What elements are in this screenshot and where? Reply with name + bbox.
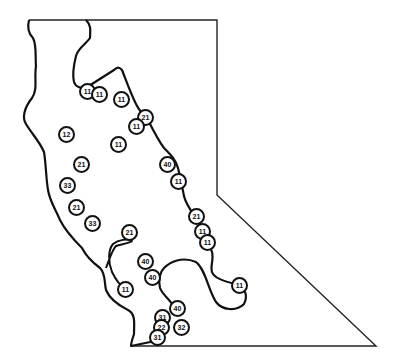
marker-label: 40 — [142, 258, 150, 265]
marker-label: 12 — [63, 131, 71, 138]
marker-label: 11 — [175, 178, 182, 185]
site-marker: 11 — [91, 86, 108, 103]
site-marker: 11 — [199, 234, 216, 251]
marker-label: 32 — [178, 324, 186, 331]
marker-label: 40 — [174, 305, 182, 312]
bay-inlet — [106, 240, 132, 287]
marker-label: 21 — [193, 213, 201, 220]
site-marker: 21 — [121, 224, 138, 241]
state-boundary — [29, 20, 376, 346]
site-marker: 11 — [117, 281, 134, 298]
marker-label: 11 — [122, 286, 129, 293]
marker-label: 11 — [204, 239, 211, 246]
marker-label: 40 — [164, 161, 172, 168]
site-marker: 33 — [59, 177, 76, 194]
site-marker: 12 — [58, 126, 75, 143]
site-marker: 21 — [68, 199, 85, 216]
marker-label: 11 — [236, 282, 243, 289]
site-marker: 40 — [144, 269, 161, 286]
marker-label: 21 — [78, 161, 86, 168]
site-marker: 11 — [110, 136, 127, 153]
site-marker: 40 — [137, 253, 154, 270]
site-marker: 40 — [169, 300, 186, 317]
site-marker: 31 — [149, 329, 166, 346]
marker-label: 40 — [149, 274, 157, 281]
site-marker: 33 — [84, 215, 101, 232]
marker-label: 11 — [115, 141, 122, 148]
site-marker: 21 — [73, 156, 90, 173]
site-marker: 11 — [231, 277, 248, 294]
marker-label: 11 — [118, 96, 125, 103]
marker-label: 21 — [73, 204, 81, 211]
marker-label: 21 — [126, 229, 134, 236]
coastline — [24, 20, 160, 346]
marker-label: 11 — [96, 91, 103, 98]
site-marker: 11 — [128, 118, 145, 135]
marker-label: 11 — [133, 123, 140, 130]
site-marker: 11 — [170, 173, 187, 190]
site-marker: 32 — [173, 319, 190, 336]
marker-label: 33 — [89, 220, 97, 227]
site-marker: 40 — [159, 156, 176, 173]
marker-label: 31 — [154, 334, 162, 341]
site-marker: 11 — [113, 91, 130, 108]
marker-label: 33 — [64, 182, 72, 189]
